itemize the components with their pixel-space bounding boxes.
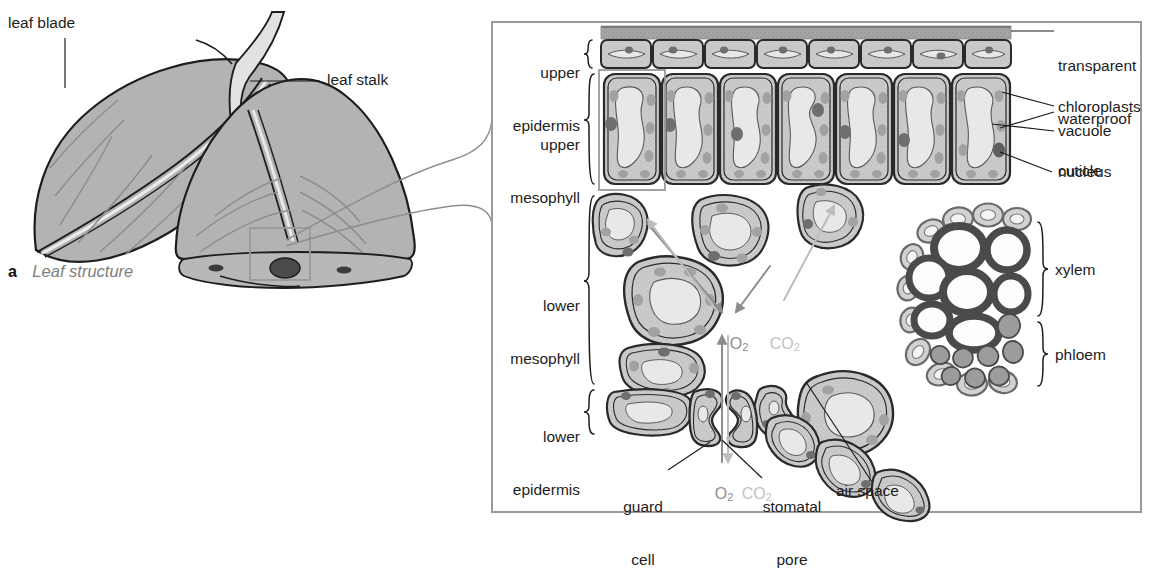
gas-co2-subscript: 2 xyxy=(794,341,800,353)
gas-co2-formula: CO xyxy=(770,335,794,352)
label-upper-mesophyll: upper mesophyll xyxy=(400,101,580,241)
gas-o2-formula: O xyxy=(730,335,742,352)
gas-label-co2-pore: CO2 xyxy=(724,467,772,521)
chloroplast-shape xyxy=(957,90,966,102)
label-lower-mesophyll-line2: mesophyll xyxy=(400,350,580,368)
label-cuticle-line1: transparent xyxy=(1058,57,1136,75)
label-nucleus: nucleus xyxy=(1058,163,1111,181)
figure-caption: a Leaf structure xyxy=(8,262,133,281)
label-lower-epidermis: lower epidermis xyxy=(400,393,580,533)
gas-co2-pore-subscript: 2 xyxy=(766,491,772,503)
label-chloroplasts: chloroplasts xyxy=(1058,98,1141,116)
vacuole-shape xyxy=(964,87,994,167)
label-leaf-stalk: leaf stalk xyxy=(327,71,388,89)
gas-label-co2-mesophyll: CO2 xyxy=(752,317,800,371)
caption-text: Leaf structure xyxy=(32,262,133,280)
label-air-space: air space xyxy=(836,482,899,500)
label-xylem: xylem xyxy=(1055,261,1095,279)
label-upper-mesophyll-line2: mesophyll xyxy=(400,189,580,207)
label-leaf-blade: leaf blade xyxy=(8,14,75,32)
label-lower-epidermis-line2: epidermis xyxy=(400,481,580,499)
label-upper-mesophyll-line1: upper xyxy=(400,136,580,154)
upper-epidermis-cells xyxy=(601,40,1011,68)
nucleus-shape xyxy=(993,143,1005,158)
stoma-marker-right xyxy=(337,267,352,274)
label-upper-epidermis-line1: upper xyxy=(400,64,580,82)
gas-label-o2-mesophyll: O2 xyxy=(712,317,748,371)
label-lower-mesophyll-line1: lower xyxy=(400,297,580,315)
label-stomatal-pore-line2: pore xyxy=(746,551,838,569)
stoma-marker-left xyxy=(209,265,224,272)
label-cuticle: transparent waterproof cuticle xyxy=(1058,22,1136,215)
gas-o2-subscript: 2 xyxy=(742,341,748,353)
stoma-magnified-marker xyxy=(270,258,300,278)
label-guard-cell-line1: guard xyxy=(598,498,688,516)
label-lower-epidermis-line1: lower xyxy=(400,428,580,446)
label-guard-cell-line2: cell xyxy=(598,551,688,569)
label-guard-cell: guard cell xyxy=(598,463,688,572)
caption-marker: a xyxy=(8,263,17,280)
cuticle-layer xyxy=(601,26,1011,39)
gas-co2-pore-formula: CO xyxy=(742,485,766,502)
label-phloem: phloem xyxy=(1055,346,1106,364)
label-vacuole: vacuole xyxy=(1058,122,1111,140)
label-lower-mesophyll: lower mesophyll xyxy=(400,262,580,402)
